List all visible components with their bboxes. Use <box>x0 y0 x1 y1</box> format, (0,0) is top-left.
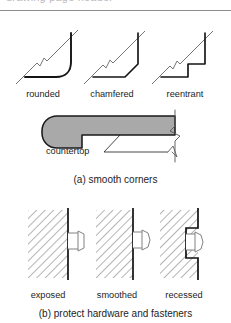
caption-a: (a) smooth corners <box>0 174 231 185</box>
fastener-detail-smoothed <box>96 208 150 280</box>
figure-smooth-corners-and-hardware: drawing page header <box>0 0 231 323</box>
label-smoothed: smoothed <box>84 290 150 300</box>
label-recessed: recessed <box>152 290 216 300</box>
corner-profile-reentrant <box>152 31 213 84</box>
label-chamfered: chamfered <box>76 89 148 99</box>
corner-profile-chamfered <box>84 31 145 84</box>
caption-b: (b) protect hardware and fasteners <box>0 308 231 319</box>
fastener-detail-exposed <box>28 208 84 280</box>
fastener-detail-recessed <box>160 208 203 280</box>
label-exposed: exposed <box>16 290 80 300</box>
corner-profile-rounded <box>16 30 78 84</box>
label-rounded: rounded <box>10 89 76 99</box>
figure-drawing-canvas <box>0 0 231 323</box>
label-countertop: countertop <box>46 146 89 156</box>
label-reentrant: reentrant <box>150 89 220 99</box>
